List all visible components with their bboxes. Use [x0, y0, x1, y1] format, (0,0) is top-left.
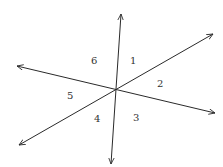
angle-label-2: 2	[157, 78, 163, 89]
angle-label-3: 3	[133, 112, 139, 123]
angle-label-6: 6	[91, 55, 97, 66]
ascending-line	[19, 34, 213, 145]
angle-label-5: 5	[67, 90, 73, 101]
angle-label-4: 4	[94, 113, 100, 124]
intersecting-lines-diagram: 1 2 3 4 5 6	[0, 0, 223, 167]
angle-label-1: 1	[130, 55, 136, 66]
